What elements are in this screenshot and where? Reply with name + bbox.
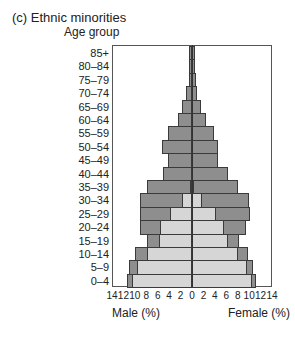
female-bar <box>192 167 228 181</box>
male-bar <box>168 126 192 140</box>
female-light-bar <box>192 234 228 248</box>
x-tick: 10 <box>244 290 255 301</box>
x-tick: 4 <box>212 290 218 301</box>
age-label: 15–19 <box>49 235 109 247</box>
y-axis-label: Age group <box>64 25 119 39</box>
male-bar <box>147 180 192 194</box>
male-light-bar <box>170 207 192 221</box>
male-bar <box>163 167 192 181</box>
female-bar <box>192 140 218 154</box>
x-tick: 10 <box>129 290 140 301</box>
male-light-bar <box>132 274 192 288</box>
age-label: 40–44 <box>49 168 109 180</box>
age-label: 60–64 <box>49 114 109 126</box>
center-axis <box>192 45 193 287</box>
female-light-bar <box>192 247 238 261</box>
male-bar <box>178 113 192 127</box>
x-tick: 6 <box>155 290 161 301</box>
age-label: 75–79 <box>49 74 109 86</box>
male-light-bar <box>182 193 192 207</box>
male-light-bar <box>160 220 192 234</box>
male-light-bar <box>159 234 192 248</box>
female-bar <box>192 113 206 127</box>
x-tick: 8 <box>144 290 150 301</box>
female-bar <box>192 126 214 140</box>
male-bar <box>182 100 192 114</box>
female-bar <box>192 180 238 194</box>
x-tick: 12 <box>255 290 266 301</box>
age-label: 35–39 <box>49 181 109 193</box>
female-light-bar <box>192 193 202 207</box>
age-label: 5–9 <box>49 261 109 273</box>
female-bar <box>192 153 218 167</box>
x-tick: 2 <box>178 290 184 301</box>
age-label: 25–29 <box>49 208 109 220</box>
male-bar <box>168 153 192 167</box>
x-label-male: Male (%) <box>112 306 160 320</box>
age-label: 80–84 <box>49 60 109 72</box>
age-label: 50–54 <box>49 141 109 153</box>
male-light-bar <box>137 260 192 274</box>
female-light-bar <box>192 207 216 221</box>
x-tick: 12 <box>118 290 129 301</box>
x-tick: 0 <box>189 290 195 301</box>
x-tick: 2 <box>201 290 207 301</box>
age-label: 30–34 <box>49 194 109 206</box>
x-tick: 6 <box>224 290 230 301</box>
male-light-bar <box>147 247 192 261</box>
female-light-bar <box>192 274 252 288</box>
age-label: 20–24 <box>49 221 109 233</box>
age-label: 65–69 <box>49 101 109 113</box>
age-label: 85+ <box>49 47 109 59</box>
x-tick: 4 <box>166 290 172 301</box>
age-label: 70–74 <box>49 87 109 99</box>
x-label-female: Female (%) <box>228 306 290 320</box>
age-label: 0–4 <box>49 275 109 287</box>
x-tick: 8 <box>235 290 241 301</box>
x-tick: 14 <box>106 290 117 301</box>
chart-title: (c) Ethnic minorities <box>12 10 126 25</box>
x-tick: 14 <box>266 290 277 301</box>
male-bar <box>162 140 192 154</box>
female-bar <box>192 100 201 114</box>
age-label: 45–49 <box>49 154 109 166</box>
female-light-bar <box>192 260 247 274</box>
female-light-bar <box>192 220 224 234</box>
age-label: 10–14 <box>49 248 109 260</box>
age-label: 55–59 <box>49 127 109 139</box>
